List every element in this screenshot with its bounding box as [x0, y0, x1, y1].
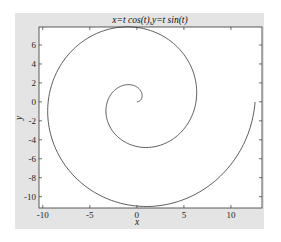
y-tick-label: 6 [32, 40, 37, 50]
chart-title: x=t cos(t),y=t sin(t) [111, 15, 187, 26]
y-tick-label: -8 [29, 173, 37, 183]
x-tick-label: 10 [226, 210, 236, 220]
x-axis-label: x [134, 217, 140, 227]
y-tick-label: 2 [32, 78, 37, 88]
y-axis-label: y [14, 115, 24, 121]
y-tick-label: 0 [32, 97, 37, 107]
y-tick-label: -4 [29, 135, 37, 145]
axes-box [39, 27, 262, 208]
y-tick-label: -6 [29, 154, 37, 164]
x-tick-label: 5 [182, 210, 187, 220]
spiral-plot: x=t cos(t),y=t sin(t) -10-50510 6420-2-4… [0, 0, 281, 242]
x-tick-label: -5 [86, 210, 94, 220]
x-tick-label: -10 [37, 210, 49, 220]
y-tick-label: 4 [32, 59, 37, 69]
y-tick-label: -10 [24, 192, 36, 202]
y-tick-label: -2 [29, 116, 37, 126]
